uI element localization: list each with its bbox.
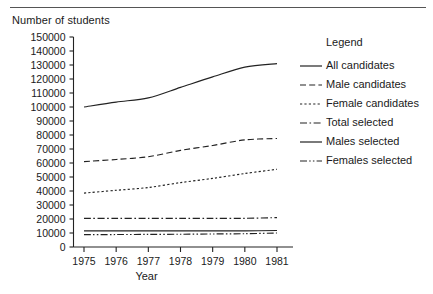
- legend-line-swatch: [300, 137, 322, 147]
- x-tick-label-group: 1975197619771978197919801981: [72, 255, 289, 267]
- x-tick-label: 1980: [233, 255, 257, 267]
- figure-root: Number of students 010000200003000040000…: [0, 0, 433, 294]
- legend-entry[interactable]: All candidates: [300, 56, 433, 75]
- y-tick-label: 90000: [36, 115, 65, 127]
- y-tick-label: 120000: [30, 73, 65, 85]
- x-tick-label: 1976: [104, 255, 128, 267]
- x-tick-label: 1979: [201, 255, 225, 267]
- legend-entry[interactable]: Females selected: [300, 151, 433, 170]
- y-tick-label: 40000: [36, 185, 65, 197]
- y-tick-label: 130000: [30, 59, 65, 71]
- y-tick-label: 100000: [30, 101, 65, 113]
- y-tick-label: 50000: [36, 171, 65, 183]
- x-tick-label: 1978: [169, 255, 193, 267]
- data-series-group: [84, 64, 277, 235]
- legend-line-swatch: [300, 118, 322, 128]
- y-tick-label: 0: [60, 241, 66, 253]
- legend-title: Legend: [326, 36, 433, 48]
- y-tick-label: 80000: [36, 129, 65, 141]
- x-tick-label: 1975: [72, 255, 96, 267]
- x-tick-mark-group: [84, 247, 277, 252]
- y-tick-label: 20000: [36, 213, 65, 225]
- legend-entry-list: All candidatesMale candidatesFemale cand…: [300, 56, 433, 170]
- series-line: [84, 64, 277, 107]
- legend-entry-label: Female candidates: [326, 98, 419, 109]
- x-tick-label: 1977: [137, 255, 161, 267]
- y-tick-label-group: 0100002000030000400005000060000700008000…: [30, 31, 65, 253]
- y-tick-label: 10000: [36, 227, 65, 239]
- series-line: [84, 139, 277, 162]
- legend-entry-label: All candidates: [326, 60, 395, 71]
- legend-line-swatch: [300, 61, 322, 71]
- y-tick-label: 70000: [36, 143, 65, 155]
- legend-entry[interactable]: Total selected: [300, 113, 433, 132]
- legend-line-swatch: [300, 80, 322, 90]
- y-tick-label: 30000: [36, 199, 65, 211]
- series-line: [84, 218, 277, 219]
- legend-entry-label: Males selected: [326, 136, 399, 147]
- legend-line-swatch: [300, 156, 322, 166]
- series-line: [84, 233, 277, 235]
- legend-entry[interactable]: Male candidates: [300, 75, 433, 94]
- y-tick-label: 110000: [31, 87, 65, 99]
- legend-entry-label: Females selected: [326, 155, 412, 166]
- legend-entry-label: Total selected: [326, 117, 393, 128]
- y-tick-mark-group: [70, 37, 74, 247]
- y-tick-label: 140000: [30, 45, 65, 57]
- series-line: [84, 169, 277, 193]
- y-tick-label: 60000: [36, 157, 65, 169]
- legend-line-swatch: [300, 99, 322, 109]
- x-axis-title: Year: [0, 270, 293, 282]
- legend-entry[interactable]: Female candidates: [300, 94, 433, 113]
- legend: Legend All candidatesMale candidatesFema…: [300, 36, 433, 170]
- x-tick-label: 1981: [265, 255, 289, 267]
- legend-entry-label: Male candidates: [326, 79, 406, 90]
- legend-entry[interactable]: Males selected: [300, 132, 433, 151]
- y-tick-label: 150000: [30, 31, 65, 43]
